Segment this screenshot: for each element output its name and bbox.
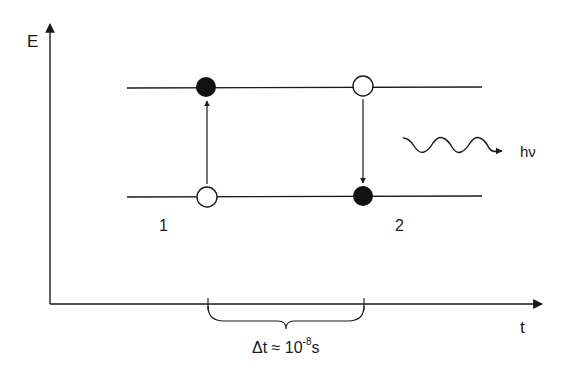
upper-energy-level [127, 87, 482, 88]
filled-electron-icon [196, 77, 216, 97]
empty-electron-icon [353, 76, 373, 96]
wavy-arrow-icon [403, 138, 502, 153]
photon-label: hν [520, 143, 536, 160]
y-axis-label: E [27, 32, 38, 51]
interval-label: Δt ≈ 10-8s [252, 336, 320, 356]
photon: hν [403, 138, 536, 160]
axes: E t [27, 24, 542, 337]
interval-unit: s [312, 339, 320, 356]
state-2-label: 2 [395, 217, 404, 234]
state-1: 1 [159, 77, 217, 234]
interval-label-prefix: Δt ≈ 10 [252, 339, 303, 356]
state-2: 2 [353, 76, 404, 234]
x-axis-label: t [520, 318, 525, 337]
energy-level-diagram: E t 1 2 hν Δt ≈ 10-8s [0, 0, 571, 368]
lower-energy-level [127, 196, 482, 197]
filled-electron-icon [353, 186, 373, 206]
empty-electron-icon [197, 187, 217, 207]
curly-brace-icon [208, 306, 364, 329]
time-interval: Δt ≈ 10-8s [208, 298, 364, 356]
state-1-label: 1 [159, 217, 168, 234]
